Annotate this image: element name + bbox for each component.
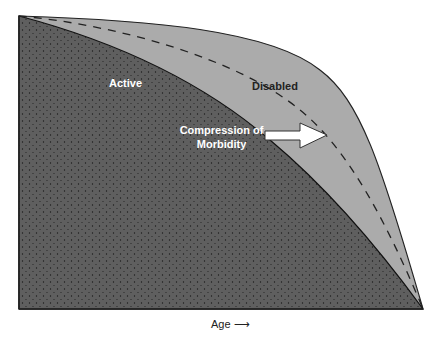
x-axis-text: Age xyxy=(211,318,231,330)
right-arrow-icon: ⟶ xyxy=(234,318,250,330)
compression-label: Compression of Morbidity xyxy=(164,123,279,151)
x-axis-label: Age ⟶ xyxy=(211,318,250,331)
compression-line2: Morbidity xyxy=(164,137,279,151)
active-label: Active xyxy=(109,77,142,89)
compression-line1: Compression of xyxy=(164,123,279,137)
disabled-label: Disabled xyxy=(252,80,298,92)
morbidity-diagram xyxy=(0,0,442,342)
